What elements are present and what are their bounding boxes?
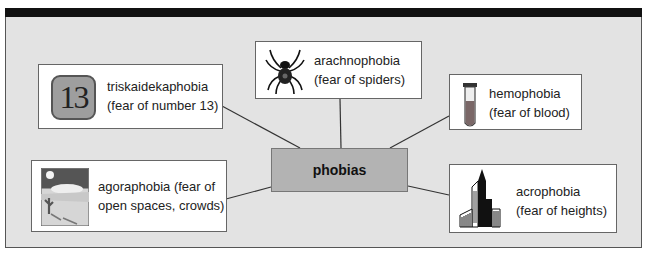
test-tube-blood-icon (462, 83, 478, 129)
node-title: hemophobia (489, 84, 570, 103)
connector-arachnophobia (340, 99, 341, 148)
spider-icon (264, 48, 306, 94)
connector-triskaidekaphobia (222, 106, 300, 148)
node-subtitle: (fear of blood) (489, 103, 570, 122)
node-arachnophobia: arachnophobia (fear of spiders) (255, 41, 422, 99)
number-13-icon: 13 (51, 75, 96, 120)
node-title: triskaidekaphobia (107, 77, 218, 96)
node-triskaidekaphobia: 13 triskaidekaphobia (fear of number 13) (38, 64, 223, 129)
desert-landscape-icon (41, 168, 89, 226)
node-subtitle: (fear of spiders) (314, 70, 405, 89)
connector-acrophobia (408, 186, 449, 195)
node-title: acrophobia (516, 182, 607, 201)
center-label: phobias (313, 162, 367, 178)
node-subtitle: open spaces, crowds) (98, 196, 224, 215)
node-acrophobia: acrophobia (fear of heights) (449, 164, 617, 233)
node-title: agoraphobia (fear of (98, 177, 224, 196)
node-agoraphobia: agoraphobia (fear of open spaces, crowds… (31, 160, 227, 232)
skyscraper-icon (458, 169, 504, 229)
node-title: arachnophobia (314, 51, 405, 70)
connector-agoraphobia (226, 187, 271, 199)
center-node-phobias: phobias (271, 148, 408, 192)
node-hemophobia: hemophobia (fear of blood) (449, 74, 582, 130)
node-subtitle: (fear of number 13) (107, 96, 218, 115)
node-subtitle: (fear of heights) (516, 201, 607, 220)
connector-hemophobia (390, 116, 449, 148)
